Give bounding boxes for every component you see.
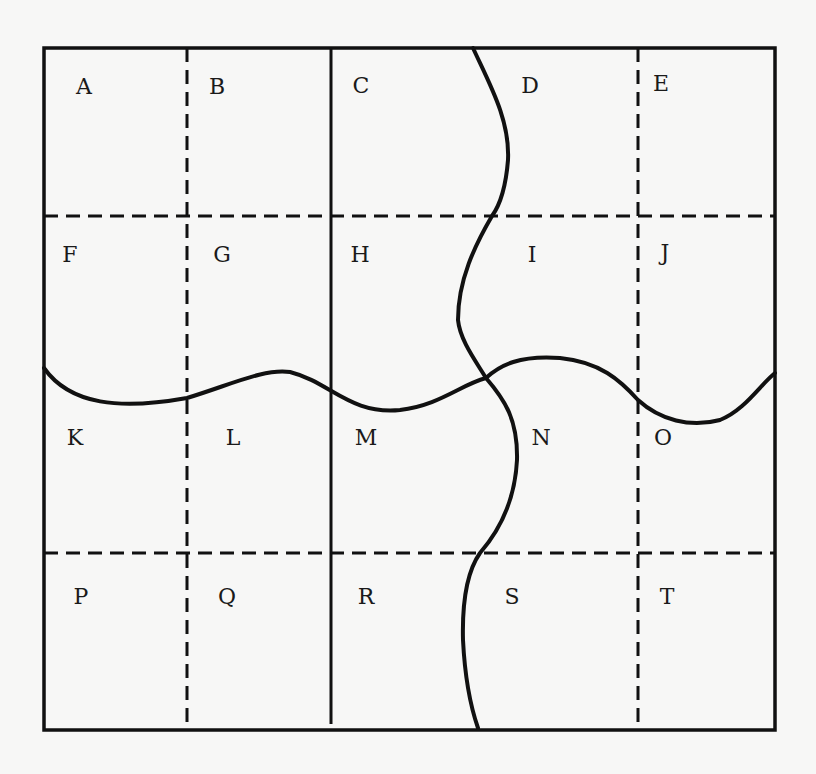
- region-label-n: N: [531, 425, 550, 450]
- region-label-k: K: [67, 425, 84, 450]
- region-label-a: A: [75, 74, 93, 99]
- region-label-d: D: [521, 73, 539, 98]
- region-label-m: M: [355, 425, 378, 450]
- background: [0, 0, 816, 774]
- region-label-g: G: [213, 242, 231, 267]
- region-label-t: T: [660, 584, 675, 609]
- region-label-p: P: [74, 584, 89, 609]
- region-label-c: C: [353, 73, 370, 98]
- region-diagram: ABCDEFGHIJKLMNOPQRST: [0, 0, 816, 774]
- region-label-b: B: [209, 74, 225, 99]
- region-label-o: O: [654, 425, 672, 450]
- region-label-l: L: [226, 425, 241, 450]
- region-label-r: R: [358, 584, 376, 609]
- region-label-s: S: [504, 584, 519, 609]
- region-label-e: E: [653, 71, 669, 96]
- region-label-q: Q: [218, 584, 236, 609]
- region-label-h: H: [350, 242, 369, 267]
- region-label-i: I: [528, 242, 537, 267]
- region-label-j: J: [659, 240, 670, 265]
- region-label-f: F: [62, 242, 77, 267]
